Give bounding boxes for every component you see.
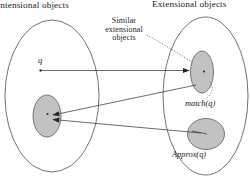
- match-function-label: match(q): [185, 99, 215, 108]
- match-cluster-blob: [191, 51, 214, 93]
- intensional-point-dot: [46, 113, 48, 115]
- query-point-dot: [39, 69, 41, 71]
- match-point-dot: [203, 70, 205, 72]
- diagram-canvas: Intensional objects Extensional objects …: [0, 0, 250, 177]
- similar-label-line-3: objects: [88, 34, 160, 43]
- intensional-objects-title: Intensional objects: [0, 1, 69, 11]
- intensional-cluster-blob: [33, 95, 61, 137]
- query-point-label: q: [38, 56, 42, 65]
- arrow-match-to-intensional: [53, 85, 196, 115]
- approx-function-label: Approx(q): [172, 150, 206, 159]
- arrow-approx-to-intensional: [53, 120, 201, 134]
- similar-extensional-objects-label: Similar extensional objects: [88, 17, 160, 43]
- extensional-objects-title: Extensional objects: [152, 0, 227, 10]
